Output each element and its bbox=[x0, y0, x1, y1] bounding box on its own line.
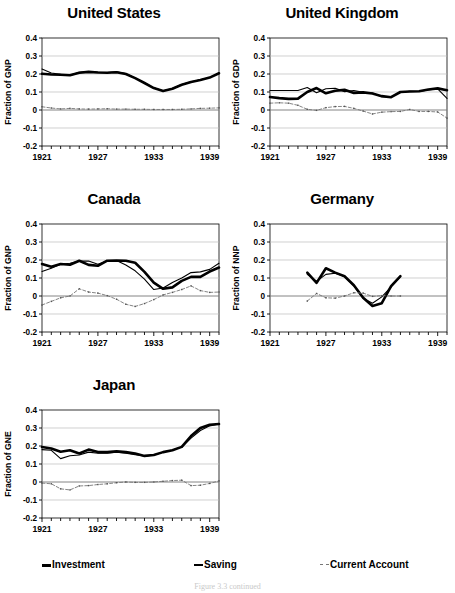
series-marker bbox=[297, 105, 298, 106]
figure-root: United States -0.2-0.100.10.20.30.419211… bbox=[0, 0, 455, 593]
series-marker bbox=[125, 304, 126, 305]
figure-caption: Figure 3.3 continued bbox=[0, 582, 455, 593]
series-marker bbox=[41, 304, 42, 305]
y-axis-title: Fraction of GDP bbox=[231, 59, 241, 125]
series-marker bbox=[190, 285, 191, 286]
y-tick-label: 0.2 bbox=[26, 442, 38, 451]
legend-label: Saving bbox=[204, 559, 237, 570]
legend-swatch-investment-icon bbox=[42, 560, 51, 570]
series-marker bbox=[437, 111, 438, 112]
series-marker bbox=[79, 485, 80, 486]
x-tick-label: 1921 bbox=[32, 338, 51, 348]
series-marker bbox=[134, 306, 135, 307]
chart-plot-area: -0.2-0.100.10.20.30.41921192719331939Fra… bbox=[0, 216, 228, 356]
y-axis-title: Fraction of GNE bbox=[3, 431, 13, 497]
y-tick-label: 0.3 bbox=[26, 52, 38, 61]
series-marker bbox=[60, 108, 61, 109]
y-tick-label: 0.1 bbox=[26, 88, 38, 97]
chart-plot-area: -0.2-0.100.10.20.30.41921192719331939Fra… bbox=[0, 402, 228, 542]
series-marker bbox=[362, 292, 363, 293]
series-marker bbox=[344, 106, 345, 107]
y-tick-label: -0.1 bbox=[23, 310, 38, 319]
legend-label: Current Account bbox=[330, 559, 409, 570]
x-tick-label: 1933 bbox=[144, 524, 163, 534]
series-marker bbox=[307, 300, 308, 301]
x-tick-label: 1939 bbox=[428, 338, 447, 348]
y-tick-label: 0.2 bbox=[26, 256, 38, 265]
y-tick-label: -0.1 bbox=[23, 124, 38, 133]
chart-title: Japan bbox=[0, 376, 228, 393]
series-marker bbox=[51, 483, 52, 484]
x-tick-label: 1921 bbox=[32, 524, 51, 534]
series-marker bbox=[269, 102, 270, 103]
x-tick-label: 1933 bbox=[372, 152, 391, 162]
series-marker bbox=[134, 482, 135, 483]
y-tick-label: 0.4 bbox=[26, 220, 38, 229]
y-tick-label: 0.1 bbox=[26, 460, 38, 469]
chart-plot-area: -0.2-0.100.10.20.30.41921192719331939Fra… bbox=[228, 30, 455, 170]
series-marker bbox=[325, 107, 326, 108]
x-tick-label: 1927 bbox=[88, 338, 107, 348]
series-marker bbox=[107, 483, 108, 484]
series-marker bbox=[279, 102, 280, 103]
series-marker bbox=[69, 108, 70, 109]
series-marker bbox=[88, 485, 89, 486]
y-axis-title: Fraction of GNP bbox=[3, 59, 13, 125]
chart-title: Germany bbox=[228, 190, 455, 207]
y-tick-label: 0.3 bbox=[26, 424, 38, 433]
series-marker bbox=[335, 106, 336, 107]
series-marker bbox=[172, 292, 173, 293]
series-marker bbox=[41, 106, 42, 107]
x-tick-label: 1927 bbox=[88, 152, 107, 162]
x-tick-label: 1939 bbox=[200, 338, 219, 348]
series-marker bbox=[162, 109, 163, 110]
series-marker bbox=[181, 289, 182, 290]
chart-title: United States bbox=[0, 4, 228, 21]
series-marker bbox=[153, 299, 154, 300]
series-marker bbox=[97, 484, 98, 485]
series-marker bbox=[325, 297, 326, 298]
y-tick-label: 0.1 bbox=[26, 274, 38, 283]
chart-plot-area: -0.2-0.100.10.20.30.41921192719331939Fra… bbox=[0, 30, 228, 170]
y-axis-title: Fraction of GNP bbox=[3, 245, 13, 311]
y-tick-label: 0.4 bbox=[26, 406, 38, 415]
y-tick-label: 0.1 bbox=[254, 274, 266, 283]
x-tick-label: 1933 bbox=[144, 338, 163, 348]
series-marker bbox=[153, 481, 154, 482]
series-marker bbox=[446, 117, 447, 118]
series-marker bbox=[353, 108, 354, 109]
series-marker bbox=[97, 292, 98, 293]
chart-panel-united-states: United States -0.2-0.100.10.20.30.419211… bbox=[0, 0, 228, 182]
legend-swatch-current-account-icon bbox=[320, 560, 329, 570]
x-tick-label: 1939 bbox=[200, 524, 219, 534]
chart-panel-canada: Canada -0.2-0.100.10.20.30.4192119271933… bbox=[0, 186, 228, 368]
series-marker bbox=[51, 301, 52, 302]
y-tick-label: 0.3 bbox=[254, 52, 266, 61]
x-tick-label: 1927 bbox=[316, 152, 335, 162]
y-axis-title: Fraction of NNP bbox=[231, 245, 241, 310]
series-marker bbox=[144, 303, 145, 304]
series-marker bbox=[116, 108, 117, 109]
series-marker bbox=[125, 481, 126, 482]
series-marker bbox=[428, 111, 429, 112]
y-tick-label: 0.4 bbox=[254, 220, 266, 229]
series-marker bbox=[418, 111, 419, 112]
chart-svg: -0.2-0.100.10.20.30.41921192719331939Fra… bbox=[0, 216, 228, 356]
series-marker bbox=[390, 111, 391, 112]
series-marker bbox=[335, 297, 336, 298]
series-marker bbox=[409, 109, 410, 110]
chart-panel-germany: Germany -0.2-0.100.10.20.30.419211927193… bbox=[228, 186, 455, 368]
y-tick-label: 0 bbox=[260, 106, 265, 115]
y-tick-label: 0 bbox=[32, 106, 37, 115]
series-marker bbox=[88, 291, 89, 292]
x-tick-label: 1939 bbox=[428, 152, 447, 162]
series-marker bbox=[144, 482, 145, 483]
legend-swatch-saving-icon bbox=[194, 560, 203, 570]
series-marker bbox=[344, 295, 345, 296]
series-marker bbox=[60, 297, 61, 298]
series-marker bbox=[162, 294, 163, 295]
series-marker bbox=[97, 108, 98, 109]
series-marker bbox=[218, 107, 219, 108]
series-marker bbox=[390, 295, 391, 296]
series-marker bbox=[400, 295, 401, 296]
